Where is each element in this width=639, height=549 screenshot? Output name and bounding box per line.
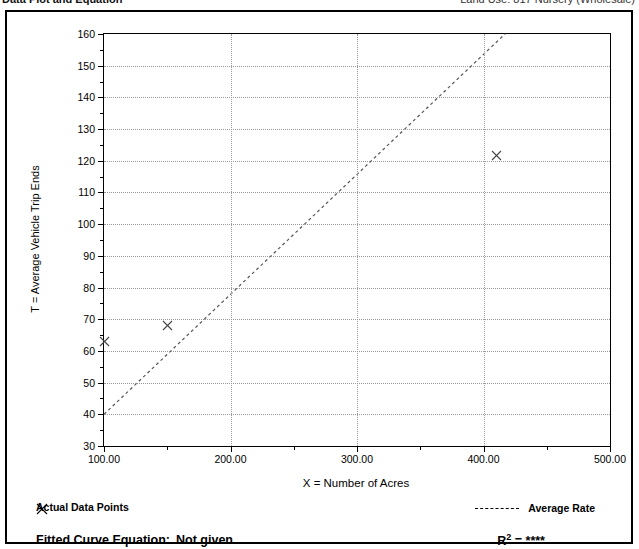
y-axis-minor-tick	[100, 145, 104, 146]
x-axis-tick	[484, 446, 485, 452]
x-axis-minor-tick	[294, 446, 295, 450]
y-axis-tick	[98, 161, 104, 162]
r-squared-statistic: R2 = ****	[497, 532, 545, 548]
y-axis-tick	[98, 319, 104, 320]
y-axis-tick-label: 140	[77, 91, 95, 103]
y-axis-tick-label: 110	[78, 186, 95, 198]
legend-item-actual-data-points: Actual Data Points	[36, 501, 129, 513]
x-axis-tick-label: 300.00	[341, 453, 373, 465]
y-axis-tick-label: 90	[83, 250, 95, 262]
gridline-vertical	[484, 34, 485, 446]
y-axis-tick	[98, 97, 104, 98]
x-axis-tick	[610, 446, 611, 452]
fitted-curve-label: Fitted Curve Equation:	[36, 533, 170, 547]
y-axis-tick-label: 100	[77, 218, 95, 230]
y-axis-minor-tick	[100, 272, 104, 273]
y-axis-minor-tick	[100, 177, 104, 178]
y-axis-tick	[98, 192, 104, 193]
gridline-vertical	[357, 34, 358, 446]
r-squared-exponent: 2	[506, 532, 511, 542]
y-axis-minor-tick	[100, 82, 104, 83]
data-point-marker	[99, 333, 110, 344]
y-axis-title: T = Average Vehicle Trip Ends	[29, 165, 41, 312]
fitted-curve-equation: Fitted Curve Equation:Not given	[36, 533, 233, 547]
figure-box: T = Average Vehicle Trip Ends X = Number…	[5, 10, 633, 544]
data-point-marker	[162, 317, 173, 328]
y-axis-minor-tick	[100, 430, 104, 431]
plot-area: 30405060708090100110120130140150160100.0…	[103, 33, 611, 447]
r-squared-value: ****	[526, 534, 545, 548]
y-axis-tick-label: 130	[77, 123, 95, 135]
r-squared-label: R	[497, 534, 506, 548]
y-axis-tick	[98, 256, 104, 257]
legend-label-actual-data-points: Actual Data Points	[36, 501, 129, 513]
y-axis-tick	[98, 288, 104, 289]
x-axis-tick-label: 100.00	[88, 453, 120, 465]
legend-item-average-rate: Average Rate	[475, 502, 595, 514]
y-axis-tick	[98, 351, 104, 352]
y-axis-tick-label: 150	[77, 60, 95, 72]
dashed-line-icon	[475, 508, 519, 509]
x-axis-minor-tick	[547, 446, 548, 450]
y-axis-minor-tick	[100, 208, 104, 209]
y-axis-minor-tick	[100, 240, 104, 241]
x-axis-title: X = Number of Acres	[303, 477, 409, 489]
y-axis-tick-label: 80	[83, 282, 95, 294]
x-axis-tick-label: 400.00	[467, 453, 499, 465]
x-axis-minor-tick	[167, 446, 168, 450]
x-axis-minor-tick	[420, 446, 421, 450]
y-axis-minor-tick	[100, 303, 104, 304]
y-axis-tick	[98, 66, 104, 67]
plot-inner: 30405060708090100110120130140150160100.0…	[104, 34, 610, 446]
y-axis-tick-label: 50	[83, 377, 95, 389]
x-axis-tick-label: 200.00	[214, 453, 246, 465]
page-title: Data Plot and Equation	[2, 0, 122, 5]
y-axis-minor-tick	[100, 113, 104, 114]
y-axis-tick-label: 70	[83, 313, 95, 325]
data-point-marker	[491, 147, 502, 158]
legend-label-average-rate: Average Rate	[528, 502, 595, 514]
y-axis-minor-tick	[100, 398, 104, 399]
r-squared-equals: =	[515, 534, 522, 548]
y-axis-tick	[98, 129, 104, 130]
fitted-curve-value: Not given	[176, 533, 233, 547]
x-axis-tick-label: 500.00	[594, 453, 626, 465]
y-axis-minor-tick	[100, 367, 104, 368]
page-subtitle-land-use: Land Use: 817 Nursery (Wholesale)	[460, 0, 635, 5]
y-axis-tick	[98, 414, 104, 415]
gridline-vertical	[231, 34, 232, 446]
x-axis-tick	[231, 446, 232, 452]
y-axis-minor-tick	[100, 50, 104, 51]
y-axis-tick-label: 160	[77, 28, 95, 40]
y-axis-tick	[98, 383, 104, 384]
y-axis-tick	[98, 34, 104, 35]
y-axis-tick	[98, 224, 104, 225]
y-axis-tick-label: 40	[83, 408, 95, 420]
y-axis-tick-label: 30	[83, 440, 95, 452]
x-axis-tick	[104, 446, 105, 452]
y-axis-tick-label: 120	[77, 155, 95, 167]
x-marker-icon	[36, 501, 48, 513]
x-axis-tick	[357, 446, 358, 452]
y-axis-tick-label: 60	[83, 345, 95, 357]
